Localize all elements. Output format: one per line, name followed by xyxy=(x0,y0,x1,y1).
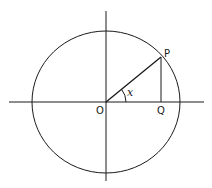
label-angle-x: x xyxy=(127,86,134,99)
radius-op xyxy=(106,57,161,102)
unit-circle-diagram: O P Q x xyxy=(0,0,212,188)
diagram-canvas: O P Q x xyxy=(0,0,212,188)
label-origin: O xyxy=(96,105,104,116)
angle-arc xyxy=(122,89,127,102)
label-point-p: P xyxy=(164,48,170,59)
label-point-q: Q xyxy=(157,105,165,116)
